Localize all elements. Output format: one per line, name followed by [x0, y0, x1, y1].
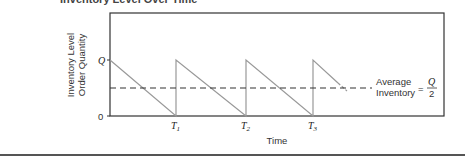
bottom-divider	[0, 154, 465, 156]
avg-label-line1: Average	[376, 76, 411, 87]
y-axis-label-line1: Inventory Level	[65, 33, 76, 97]
plot-frame	[110, 13, 444, 116]
y-axis-label-line2: Order Quantity	[76, 34, 87, 97]
avg-equals: =	[418, 83, 424, 94]
avg-fraction-numerator: Q	[428, 76, 436, 87]
y-tick-label-0: 0	[98, 111, 103, 122]
inventory-projected-segment	[338, 83, 347, 91]
y-tick-label-q: Q	[98, 55, 106, 66]
avg-fraction-denominator: 2	[429, 88, 434, 99]
x-tick-label-t2: T2	[241, 120, 251, 133]
x-tick-label-t1: T1	[171, 120, 180, 133]
x-axis-label: Time	[267, 135, 288, 146]
inventory-chart: Inventory Level Order Quantity Q 0 T1 T2…	[0, 0, 465, 159]
x-tick-label-t3: T3	[308, 120, 318, 133]
avg-label-line2: Inventory	[376, 87, 415, 98]
